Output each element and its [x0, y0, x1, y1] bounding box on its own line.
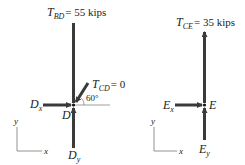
ex-label: Ex: [162, 98, 174, 114]
force-ex: Ex: [162, 98, 202, 114]
joint-d-node: [72, 103, 75, 106]
fbd-joint-d: TBD= 55 kips TCD= 0 60° Dx Dy D y: [13, 5, 126, 164]
angle-label: 60°: [86, 93, 99, 103]
t-bd-label: TBD= 55 kips: [47, 5, 106, 21]
dy-label: Dy: [67, 148, 81, 164]
t-ce-label: TCE= 35 kips: [176, 15, 235, 31]
axes-left: y x: [13, 116, 48, 156]
t-cd-label: TCD= 0: [92, 77, 126, 93]
force-t-cd: TCD= 0: [76, 77, 126, 102]
x-axis-label: x: [178, 146, 183, 156]
force-ey: Ey: [198, 108, 210, 158]
force-t-ce: TCE= 35 kips: [176, 15, 235, 103]
dx-label: Dx: [29, 97, 43, 113]
y-axis-label: y: [13, 116, 18, 126]
fbd-joint-e: TCE= 35 kips Ex Ey E y x: [150, 15, 235, 158]
joint-e-label: E: [208, 98, 217, 112]
axes-right: y x: [150, 116, 183, 156]
y-axis-label: y: [150, 116, 155, 126]
ey-label: Ey: [198, 142, 210, 158]
free-body-diagrams: TBD= 55 kips TCD= 0 60° Dx Dy D y: [0, 0, 245, 165]
joint-d-label: D: [61, 108, 71, 122]
joint-e-node: [203, 103, 206, 106]
x-axis-label: x: [43, 146, 48, 156]
